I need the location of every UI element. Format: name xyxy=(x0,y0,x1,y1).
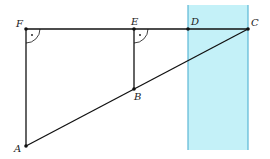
label-e: E xyxy=(130,16,139,27)
label-f: F xyxy=(15,18,24,29)
point-c xyxy=(246,27,250,31)
right-angle-mark-f xyxy=(26,29,40,43)
label-b: B xyxy=(133,91,141,102)
right-angle-dot-e xyxy=(139,34,141,36)
point-a xyxy=(24,144,28,148)
label-c: C xyxy=(251,17,259,28)
right-angle-mark-e xyxy=(134,29,148,43)
point-e xyxy=(132,27,136,31)
label-d: D xyxy=(190,16,199,27)
geometry-diagram: F E D C B A xyxy=(0,0,270,159)
label-a: A xyxy=(13,143,21,154)
point-f xyxy=(24,27,28,31)
point-d xyxy=(186,27,190,31)
right-angle-dot-f xyxy=(31,34,33,36)
